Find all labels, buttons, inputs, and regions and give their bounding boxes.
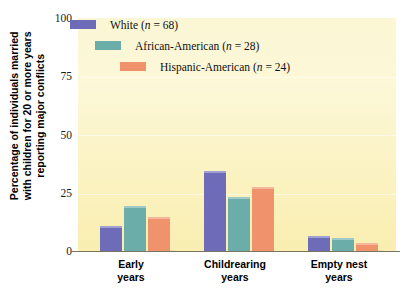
legend-swatch-african-american: [95, 41, 121, 50]
bar-empty-nest-white: [308, 236, 330, 252]
gridline-50: [78, 135, 396, 136]
legend: White (n = 68) African-American (n = 28)…: [70, 14, 320, 77]
category-label-early-years: Early years: [71, 258, 191, 284]
category-label-childrearing-years: Childrearing years: [175, 258, 295, 284]
bar-highlight: [204, 171, 226, 173]
bar-childrearing-white: [204, 171, 226, 252]
legend-swatch-white: [70, 20, 96, 29]
bar-empty-nest-african-american: [332, 238, 354, 252]
legend-item-white: White (n = 68): [70, 14, 320, 35]
y-tick-label-0: 0: [2, 246, 72, 258]
bar-highlight: [100, 226, 122, 228]
bar-highlight: [228, 197, 250, 199]
legend-item-hispanic-american: Hispanic-American (n = 24): [70, 56, 320, 77]
bar-early-white: [100, 226, 122, 252]
bar-early-african-american: [124, 206, 146, 252]
bar-highlight: [252, 187, 274, 189]
bar-chart-figure: 100 75 50 25 0 Percentage of individuals…: [0, 0, 409, 290]
y-axis-title: Percentage of individuals married with c…: [8, 2, 48, 230]
x-axis-line: [72, 251, 400, 252]
legend-item-african-american: African-American (n = 28): [70, 35, 320, 56]
legend-label-white: White (n = 68): [110, 19, 178, 31]
bar-highlight: [308, 236, 330, 238]
bar-highlight: [332, 238, 354, 240]
legend-swatch-hispanic-american: [120, 62, 146, 71]
bar-highlight: [148, 217, 170, 219]
bar-highlight: [356, 243, 378, 245]
bar-early-hispanic-american: [148, 217, 170, 252]
bar-highlight: [124, 206, 146, 208]
legend-label-african-american: African-American (n = 28): [135, 40, 259, 52]
category-label-empty-nest-years: Empty nest years: [279, 258, 399, 284]
bar-childrearing-hispanic-american: [252, 187, 274, 253]
bar-childrearing-african-american: [228, 197, 250, 252]
gridline-25: [78, 194, 396, 195]
legend-label-hispanic-american: Hispanic-American (n = 24): [160, 61, 290, 73]
